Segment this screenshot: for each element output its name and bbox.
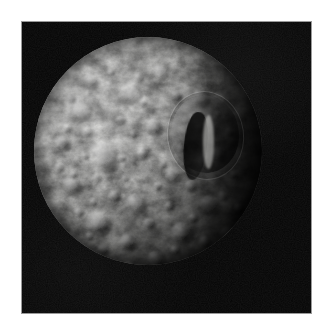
photo-frame <box>21 21 312 314</box>
moon-body <box>34 37 262 265</box>
page-canvas: Grayscale spacecraft photograph of Satur… <box>0 0 325 328</box>
moon-disc-surface <box>34 37 262 265</box>
limb-softening <box>34 37 262 265</box>
